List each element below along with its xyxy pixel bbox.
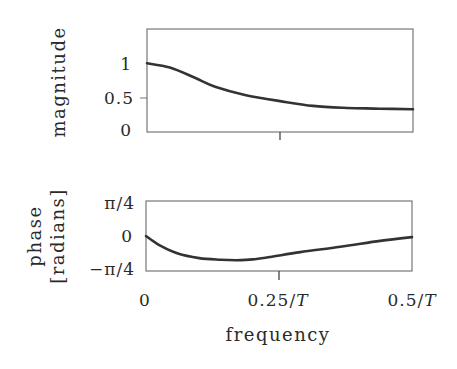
phase-panel (146, 201, 412, 280)
xtick-label-0: 0 (139, 290, 151, 310)
figure (0, 0, 457, 369)
xtick-label-0.25: 0.25/T (248, 290, 309, 310)
phase-ytick-label-mid: 0 (121, 226, 133, 246)
magnitude-ytick-label-0.5: 0.5 (104, 88, 134, 108)
phase-curve (146, 236, 412, 260)
phase-ytick-label-bot: −π/4 (89, 259, 135, 279)
magnitude-curve (147, 63, 413, 109)
xtick-label-0.5-num: 0.5/ (387, 290, 424, 310)
phase-ylabel-line2: [radians] (47, 188, 68, 284)
magnitude-ytick-label-0: 0 (120, 120, 132, 140)
phase-ytick-label-top: π/4 (104, 193, 135, 213)
magnitude-axes-frame (147, 29, 413, 132)
xtick-label-0.25-T: T (296, 290, 308, 310)
phase-axes-frame (146, 201, 412, 271)
xlabel: frequency (225, 324, 330, 345)
magnitude-panel (140, 29, 413, 140)
magnitude-ylabel: magnitude (48, 26, 69, 137)
xtick-label-0.25-num: 0.25/ (248, 290, 297, 310)
magnitude-ytick-label-1: 1 (120, 54, 132, 74)
phase-ylabel-line1: phase (24, 205, 45, 266)
xtick-label-0.5-T: T (424, 290, 436, 310)
xtick-label-0.5: 0.5/T (387, 290, 436, 310)
